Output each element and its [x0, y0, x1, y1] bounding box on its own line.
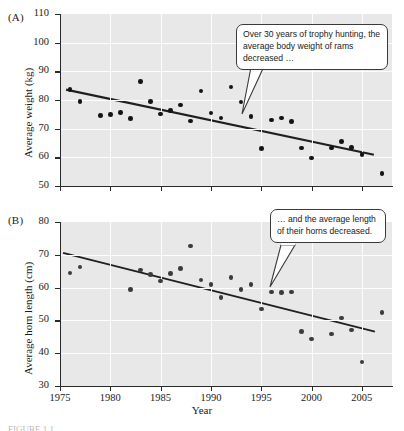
y-axis-tick	[55, 222, 60, 223]
data-point	[138, 268, 143, 273]
x-axis-tick	[261, 186, 262, 191]
y-axis-tick	[55, 353, 60, 354]
y-axis-tick	[55, 157, 60, 158]
y-axis-tick	[55, 71, 60, 72]
x-axis-tick	[312, 186, 313, 191]
y-axis-tick	[55, 288, 60, 289]
gridline-vertical	[110, 222, 111, 386]
y-axis-tick-label: 70	[9, 248, 49, 259]
x-axis-tick	[110, 386, 111, 391]
callout-b-tail	[265, 243, 325, 293]
data-point	[168, 108, 173, 113]
y-axis-tick-label: 40	[9, 346, 49, 357]
gridline-vertical	[211, 14, 212, 186]
x-axis-tick-label: 2000	[292, 392, 332, 403]
y-axis-tick	[55, 255, 60, 256]
data-point	[380, 310, 385, 315]
data-point	[68, 87, 73, 92]
y-axis-tick	[55, 320, 60, 321]
x-axis-tick-label: 1975	[40, 392, 80, 403]
callout-a: Over 30 years of trophy hunting, the ave…	[236, 24, 388, 70]
data-point	[329, 332, 334, 337]
x-axis-tick	[362, 386, 363, 391]
data-point	[259, 146, 264, 151]
panel-a-y-axis	[60, 14, 61, 187]
x-axis-tick	[362, 186, 363, 191]
y-axis-tick	[55, 129, 60, 130]
data-point	[128, 116, 133, 121]
data-point	[299, 329, 304, 334]
data-point	[339, 139, 344, 144]
y-axis-tick	[55, 100, 60, 101]
panel-b-y-axis	[60, 222, 61, 387]
y-axis-tick-label: 80	[9, 93, 49, 104]
y-axis-tick-label: 70	[9, 122, 49, 133]
x-axis-tick	[312, 386, 313, 391]
y-axis-tick	[55, 43, 60, 44]
data-point	[349, 145, 354, 150]
y-axis-tick-label: 110	[9, 7, 49, 18]
y-axis-tick	[55, 14, 60, 15]
y-axis-tick-label: 60	[9, 150, 49, 161]
data-point	[259, 307, 264, 312]
x-axis-tick	[161, 186, 162, 191]
x-axis-tick	[211, 386, 212, 391]
y-axis-tick-label: 80	[9, 215, 49, 226]
data-point	[128, 287, 133, 292]
panel-a-y-axis-title: Average weight (kg)	[22, 68, 34, 158]
panel-b-plot-area	[60, 222, 392, 386]
data-point	[148, 272, 153, 277]
data-point	[78, 99, 83, 104]
x-axis-tick	[60, 186, 61, 191]
data-point	[178, 103, 183, 108]
data-point	[178, 266, 183, 271]
y-axis-tick-label: 90	[9, 64, 49, 75]
callout-b: … and the average length of their horns …	[270, 209, 386, 243]
data-point	[108, 112, 113, 117]
figure-caption-cropped: FIGURE 1.1 ...	[8, 424, 258, 431]
data-point	[168, 271, 173, 276]
x-axis-tick	[261, 386, 262, 391]
gridline-vertical	[110, 14, 111, 186]
x-axis-tick-label: 2005	[342, 392, 382, 403]
x-axis-tick	[161, 386, 162, 391]
data-point	[329, 146, 334, 151]
data-point	[360, 152, 365, 157]
data-point	[209, 282, 214, 287]
x-axis-title: Year	[0, 404, 404, 416]
data-point	[229, 275, 234, 280]
data-point	[380, 171, 385, 176]
gridline-vertical	[261, 222, 262, 386]
y-axis-tick-label: 50	[9, 313, 49, 324]
x-axis-tick-label: 1985	[141, 392, 181, 403]
gridline-vertical	[211, 222, 212, 386]
data-point	[249, 282, 254, 287]
y-axis-tick-label: 50	[9, 179, 49, 190]
data-point	[138, 79, 143, 84]
data-point	[118, 110, 123, 115]
data-point	[98, 113, 103, 118]
x-axis-tick-label: 1990	[191, 392, 231, 403]
x-axis-tick	[60, 386, 61, 391]
x-axis-tick	[211, 186, 212, 191]
x-axis-tick	[110, 186, 111, 191]
y-axis-tick-label: 30	[9, 379, 49, 390]
x-axis-tick-label: 1995	[241, 392, 281, 403]
gridline-vertical	[161, 14, 162, 186]
data-point	[289, 119, 294, 124]
x-axis-tick-label: 1980	[90, 392, 130, 403]
y-axis-tick-label: 100	[9, 36, 49, 47]
gridline-vertical	[161, 222, 162, 386]
data-point	[148, 99, 153, 104]
y-axis-tick-label: 60	[9, 281, 49, 292]
